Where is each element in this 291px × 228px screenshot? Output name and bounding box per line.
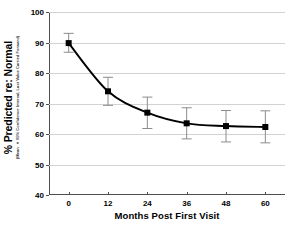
- data-point-marker: [184, 120, 190, 126]
- x-tick-label: 0: [66, 199, 70, 208]
- y-axis-title-group: % Predicted re: Normal (Mean ± 95% Confi…: [0, 0, 36, 196]
- x-tick-label: 36: [182, 199, 191, 208]
- x-tick-label: 48: [222, 199, 231, 208]
- chart-figure: % Predicted re: Normal (Mean ± 95% Confi…: [0, 0, 291, 228]
- data-point-marker: [66, 40, 72, 46]
- data-point-marker: [105, 88, 111, 94]
- y-tick-label: 50: [35, 160, 44, 169]
- y-tick-label: 90: [35, 38, 44, 47]
- y-tick-label: 70: [35, 99, 44, 108]
- x-axis-title: Months Post First Visit: [49, 210, 285, 221]
- y-tick-label: 40: [35, 191, 44, 200]
- series-line: [69, 43, 266, 127]
- x-tick-label: 12: [104, 199, 113, 208]
- y-axis-title: % Predicted re: Normal: [2, 41, 14, 154]
- y-tick-label: 80: [35, 69, 44, 78]
- data-point-marker: [262, 124, 268, 130]
- y-tick-label: 60: [35, 130, 44, 139]
- y-axis-subtitle: (Mean ± 95% Confidence Interval, Last Va…: [15, 36, 20, 159]
- x-tick-label: 60: [261, 199, 270, 208]
- x-tick-label: 24: [143, 199, 152, 208]
- y-tick-mark: [46, 195, 50, 196]
- plot-area: 405060708090100 01224364860: [49, 12, 285, 195]
- data-series-layer: [49, 12, 285, 195]
- data-point-marker: [144, 110, 150, 116]
- y-tick-label: 100: [31, 8, 44, 17]
- data-point-marker: [223, 123, 229, 129]
